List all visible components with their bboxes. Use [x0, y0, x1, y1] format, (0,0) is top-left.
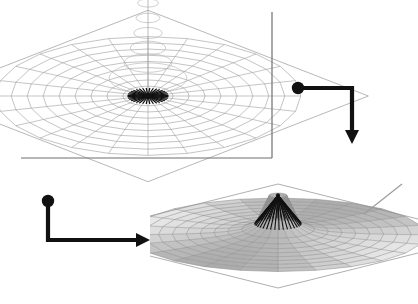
figure-canvas: [0, 0, 418, 304]
wireframe-surface-svg: [0, 0, 290, 180]
arrowhead-down-icon: [345, 130, 359, 144]
rotate-right-arrow: [32, 188, 158, 250]
rotate-down-arrow-svg: [286, 74, 366, 152]
arrow-shaft-path-2: [48, 201, 138, 240]
shaded-surface-svg: [150, 178, 418, 304]
arrowhead-right-icon: [136, 233, 150, 247]
contour-ring-stack: [109, 0, 187, 96]
plot-polar-mesh-wireframe: [0, 0, 290, 180]
plot-polar-mesh-shaded: [150, 178, 418, 304]
rotate-down-arrow: [286, 74, 366, 152]
rotate-right-arrow-svg: [32, 188, 158, 250]
arrow-shaft-path: [298, 88, 352, 132]
